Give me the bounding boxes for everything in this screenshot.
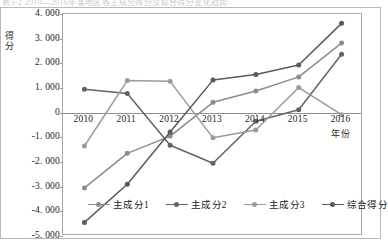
y-tick-mark [60, 236, 63, 237]
x-tick-label: 2016 [331, 114, 351, 124]
data-point [339, 41, 344, 46]
data-point [125, 182, 130, 187]
y-tick-label: 0 [16, 107, 60, 117]
x-tick-label: 2010 [74, 114, 94, 124]
legend-marker-icon [174, 202, 179, 207]
legend-item-3[interactable]: 主成分3 [244, 197, 305, 211]
legend-swatch [322, 200, 344, 208]
y-tick-mark [60, 113, 63, 114]
x-axis-title: 年份 [331, 127, 351, 140]
data-point [253, 72, 258, 77]
data-point [168, 79, 173, 84]
legend-item-1[interactable]: 主成分1 [88, 197, 149, 211]
y-axis-tick-labels: 4. 0003. 0002. 0001. 0000-1. 000-2. 000-… [14, 0, 60, 241]
data-point [253, 88, 258, 93]
y-tick-label: -4. 000 [16, 205, 60, 215]
data-point [339, 52, 344, 57]
data-point [296, 107, 301, 112]
data-point [211, 78, 216, 83]
legend-marker-icon [252, 202, 257, 207]
data-point [296, 63, 301, 68]
data-point [82, 185, 87, 190]
series-line [84, 54, 341, 163]
y-tick-mark [60, 88, 63, 89]
legend-item-2[interactable]: 主成分2 [166, 197, 227, 211]
data-point [211, 161, 216, 166]
legend-label: 主成分2 [191, 197, 227, 211]
data-point [82, 220, 87, 225]
data-point [82, 87, 87, 92]
y-tick-mark [60, 211, 63, 212]
data-point [125, 151, 130, 156]
legend-marker-icon [96, 202, 101, 207]
data-point [125, 78, 130, 83]
y-tick-mark [60, 63, 63, 64]
series-2 [82, 52, 344, 166]
y-tick-label: -2. 000 [16, 156, 60, 166]
x-tick-label: 2012 [159, 114, 179, 124]
y-tick-label: -5. 000 [16, 230, 60, 240]
data-point [125, 91, 130, 96]
legend-swatch [244, 200, 266, 208]
data-point [211, 100, 216, 105]
legend-marker-icon [330, 202, 335, 207]
x-tick-label: 2014 [245, 114, 265, 124]
chart-legend: 主成分1主成分2主成分3综合得分 [88, 197, 388, 211]
data-point [296, 74, 301, 79]
y-tick-label: -3. 000 [16, 181, 60, 191]
x-tick-label: 2015 [288, 114, 308, 124]
data-point [339, 21, 344, 26]
data-point [253, 127, 258, 132]
y-tick-label: 2. 000 [16, 57, 60, 67]
y-tick-label: 3. 000 [16, 33, 60, 43]
legend-swatch [88, 200, 110, 208]
y-tick-label: 1. 000 [16, 82, 60, 92]
y-tick-mark [60, 14, 63, 15]
y-tick-mark [60, 137, 63, 138]
y-tick-mark [60, 39, 63, 40]
data-point [211, 135, 216, 140]
y-tick-mark [60, 187, 63, 188]
legend-label: 主成分1 [113, 197, 149, 211]
data-point [168, 129, 173, 134]
legend-item-4[interactable]: 综合得分 [322, 197, 388, 211]
legend-swatch [166, 200, 188, 208]
y-tick-mark [60, 162, 63, 163]
x-tick-label: 2011 [117, 114, 136, 124]
legend-label: 主成分3 [269, 197, 305, 211]
data-point [82, 143, 87, 148]
x-tick-label: 2013 [202, 114, 222, 124]
data-point [296, 85, 301, 90]
y-tick-label: -1. 000 [16, 131, 60, 141]
data-point [168, 143, 173, 148]
y-tick-label: 4. 000 [16, 8, 60, 18]
legend-label: 综合得分 [347, 197, 388, 211]
